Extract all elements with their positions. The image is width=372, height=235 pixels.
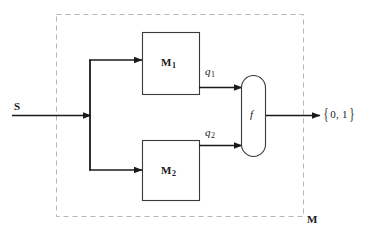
block-m2-label-base: M	[161, 164, 171, 176]
signal-q1-label-subscript: 1	[211, 70, 216, 79]
block-f-capsule	[242, 76, 266, 157]
signal-q2-label-subscript: 2	[211, 131, 216, 140]
combiner-function-label: f	[250, 109, 253, 120]
signal-q2-label: q2	[205, 127, 215, 140]
output-brace-close: }	[349, 106, 354, 123]
machine-boundary-label: M	[307, 214, 317, 225]
signal-q1-label: q1	[205, 66, 215, 79]
block-m1-label-subscript: 1	[171, 61, 176, 70]
input-signal-label: S	[14, 101, 20, 112]
block-m2-label: M2	[161, 165, 176, 178]
output-brace-open: {	[324, 106, 329, 123]
output-values: 0, 1	[330, 108, 348, 120]
block-m1-label-base: M	[161, 56, 171, 68]
output-set-label: {0, 1}	[322, 106, 356, 123]
diagram-canvas: S M1 M2 q1 q2 f {0, 1} M	[0, 0, 372, 235]
signal-q2-label-base: q	[205, 126, 211, 138]
block-m1-label: M1	[161, 57, 176, 70]
block-m2-label-subscript: 2	[171, 169, 176, 178]
diagram-vector-layer	[0, 0, 372, 235]
signal-q1-label-base: q	[205, 65, 211, 77]
